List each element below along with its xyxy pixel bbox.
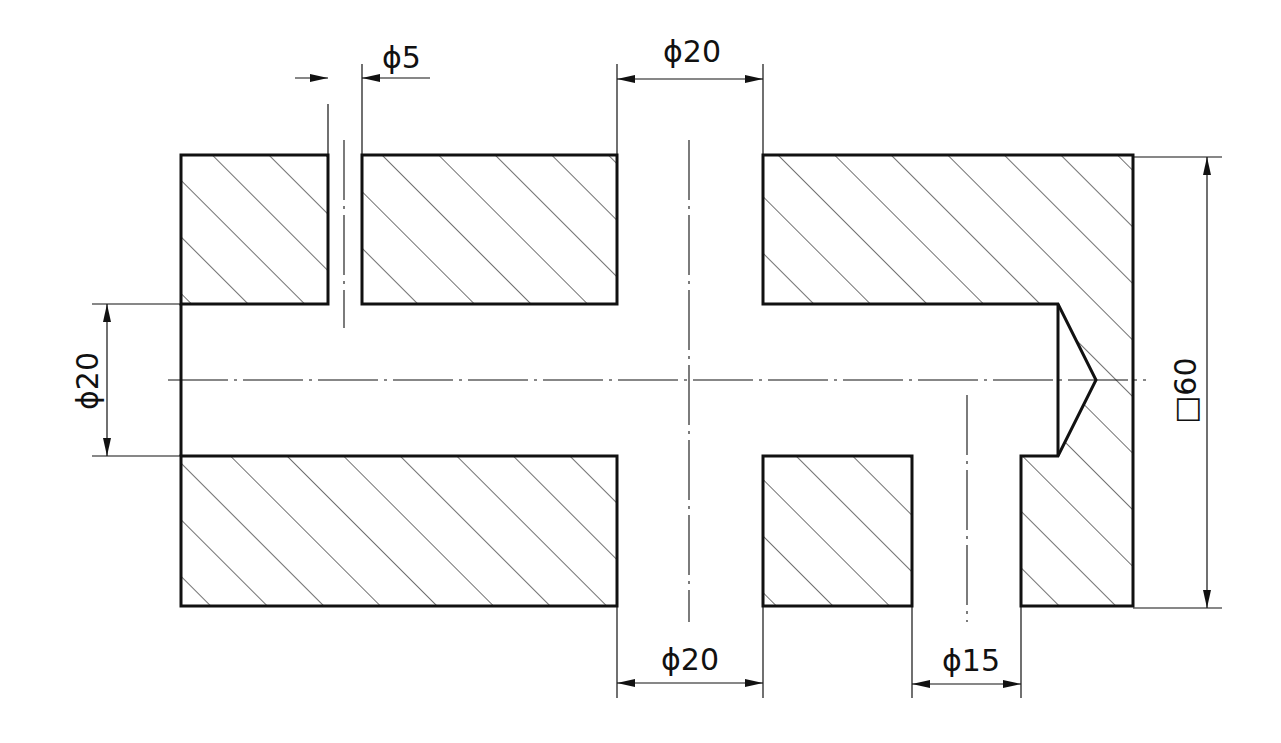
dim-label-bottom-center-hole: ϕ20	[661, 642, 719, 677]
technical-drawing: ϕ5 ϕ20 ϕ20 □60 ϕ20	[0, 0, 1281, 743]
dim-label-right-outer: □60	[1168, 357, 1203, 424]
dimension-left-bore: ϕ20	[70, 304, 181, 456]
dimension-bottom-right-hole: ϕ15	[912, 606, 1021, 698]
dimension-top-center-hole: ϕ20	[617, 34, 763, 155]
dimension-right-outer: □60	[1133, 157, 1222, 608]
dimension-bottom-center-hole: ϕ20	[617, 606, 763, 698]
dim-label-left-bore: ϕ20	[70, 352, 105, 410]
dim-label-top-small-hole: ϕ5	[382, 40, 421, 75]
section-bottom-left	[181, 456, 617, 606]
dimension-top-small-hole: ϕ5	[295, 40, 430, 155]
section-top-left	[181, 155, 328, 304]
dim-label-bottom-right-hole: ϕ15	[942, 643, 1000, 678]
dim-label-top-center-hole: ϕ20	[663, 34, 721, 69]
section-bottom-mid	[763, 456, 912, 606]
section-top-mid-left	[362, 155, 617, 304]
